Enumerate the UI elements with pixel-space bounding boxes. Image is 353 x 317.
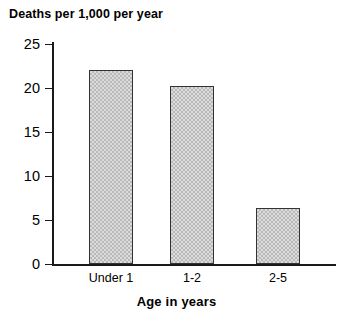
plot-area bbox=[52, 44, 336, 264]
y-axis-tick bbox=[45, 88, 52, 89]
category-label: 2-5 bbox=[233, 272, 323, 285]
y-axis-tick-label: 5 bbox=[6, 213, 40, 228]
y-axis-tick-label: 25 bbox=[6, 37, 40, 52]
y-axis-tick-label: 20 bbox=[6, 81, 40, 96]
x-axis-line bbox=[52, 264, 336, 266]
bar bbox=[256, 208, 300, 264]
y-axis-tick-label: 10 bbox=[6, 169, 40, 184]
bar-chart: Deaths per 1,000 per year 0510152025 Und… bbox=[0, 0, 353, 317]
y-axis-tick bbox=[45, 264, 52, 265]
y-axis-tick bbox=[45, 132, 52, 133]
y-axis-tick-label: 0 bbox=[6, 257, 40, 272]
chart-title: Deaths per 1,000 per year bbox=[9, 7, 163, 21]
x-axis-title: Age in years bbox=[0, 294, 353, 309]
y-axis-tick-label: 15 bbox=[6, 125, 40, 140]
bar bbox=[170, 86, 214, 264]
y-axis-tick bbox=[45, 220, 52, 221]
y-axis-tick bbox=[45, 176, 52, 177]
y-axis-tick bbox=[45, 44, 52, 45]
bar bbox=[89, 70, 133, 264]
category-label: Under 1 bbox=[66, 272, 156, 285]
category-label: 1-2 bbox=[147, 272, 237, 285]
